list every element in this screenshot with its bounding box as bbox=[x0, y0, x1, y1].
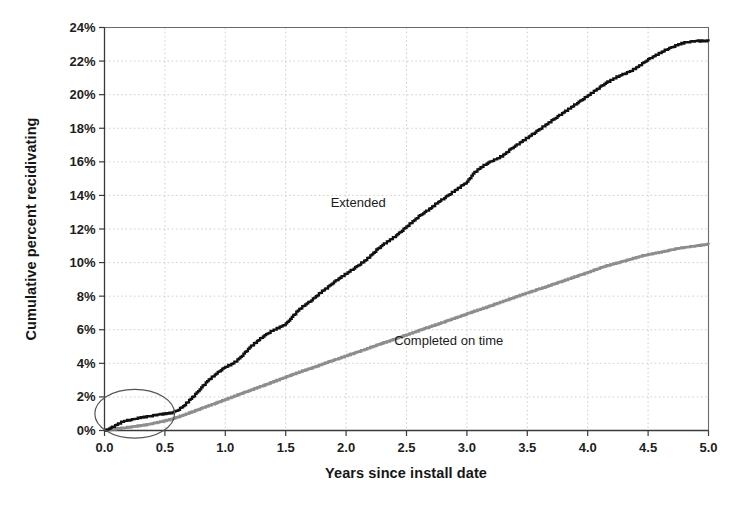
recidivism-chart-figure: 0%2%4%6%8%10%12%14%16%18%20%22%24% 0.00.… bbox=[0, 0, 745, 505]
y-tick-label: 16% bbox=[69, 154, 95, 169]
x-tick-label: 0.0 bbox=[95, 440, 113, 455]
y-tick-label: 22% bbox=[69, 54, 95, 69]
series-label-extended: Extended bbox=[331, 195, 386, 210]
x-tick-label: 3.5 bbox=[518, 440, 536, 455]
y-tick-label: 20% bbox=[69, 87, 95, 102]
x-tick-label: 4.0 bbox=[579, 440, 597, 455]
chart-canvas: 0%2%4%6%8%10%12%14%16%18%20%22%24% 0.00.… bbox=[0, 0, 745, 505]
x-tick-label: 1.0 bbox=[216, 440, 234, 455]
x-axis-title: Years since install date bbox=[325, 465, 487, 481]
y-tick-label: 8% bbox=[77, 289, 96, 304]
series-label-completed-on-time: Completed on time bbox=[394, 333, 503, 348]
y-tick-label: 4% bbox=[77, 356, 96, 371]
y-tick-label: 24% bbox=[69, 20, 95, 35]
y-tick-label: 12% bbox=[69, 222, 95, 237]
y-tick-label: 10% bbox=[69, 255, 95, 270]
x-tick-label: 0.5 bbox=[156, 440, 174, 455]
y-tick-label: 0% bbox=[77, 423, 96, 438]
x-tick-label: 2.0 bbox=[337, 440, 355, 455]
x-tick-label: 3.0 bbox=[458, 440, 476, 455]
x-tick-label: 1.5 bbox=[277, 440, 295, 455]
y-tick-label: 6% bbox=[77, 322, 96, 337]
y-tick-label: 2% bbox=[77, 389, 96, 404]
x-tick-label: 2.5 bbox=[397, 440, 415, 455]
x-tick-label: 4.5 bbox=[639, 440, 657, 455]
y-tick-label: 18% bbox=[69, 121, 95, 136]
y-tick-label: 14% bbox=[69, 188, 95, 203]
x-tick-label: 5.0 bbox=[699, 440, 717, 455]
y-axis-title: Cumulative percent recidivating bbox=[23, 117, 39, 340]
